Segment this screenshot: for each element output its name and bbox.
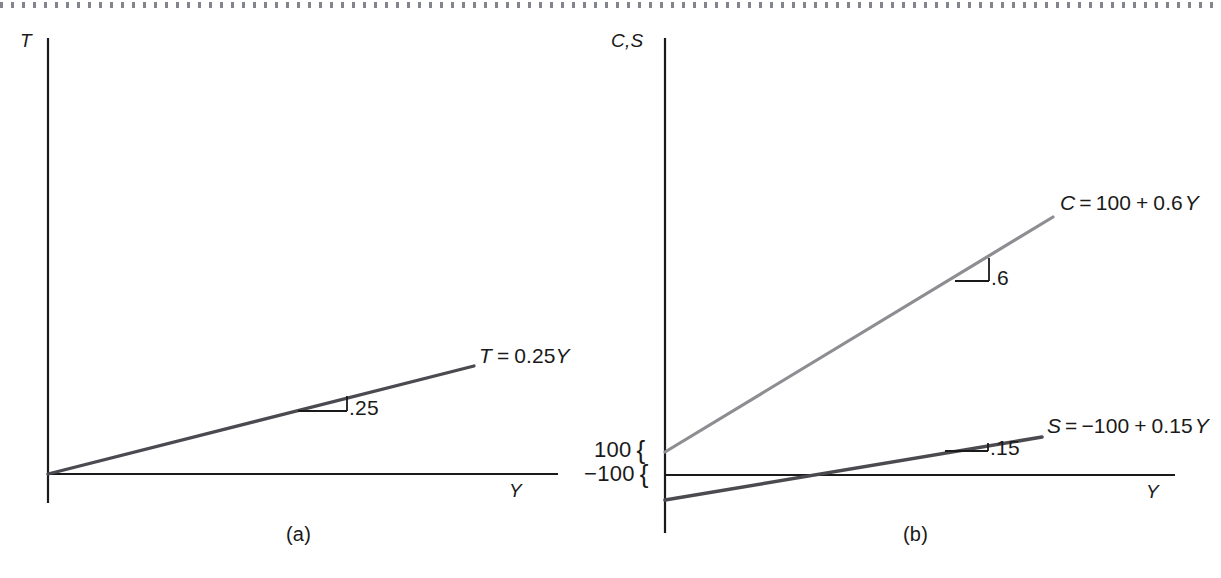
tick-positive-value: 100 — [594, 437, 632, 462]
saving-eq-variable: Y — [1195, 414, 1209, 437]
tax-eq-lhs: T — [479, 344, 492, 367]
panel-a-caption: (a) — [286, 524, 311, 544]
panel-b-tick-label-positive-100: 100{ — [594, 437, 646, 463]
tax-function-line — [48, 366, 474, 474]
panel-a-axes — [48, 38, 558, 503]
tick-negative-brace: { — [640, 459, 649, 489]
panel-a-slope-value-label: .25 — [349, 397, 379, 418]
saving-eq-slope: 0.15 — [1152, 414, 1193, 437]
panel-b-consumption-slope-triangle — [955, 258, 989, 281]
panel-a-y-axis-label: T — [20, 31, 32, 50]
saving-eq-intercept: −100 — [1081, 414, 1129, 437]
panel-a-x-axis-label: Y — [509, 481, 522, 500]
tax-eq-slope: 0.25 — [514, 344, 555, 367]
consumption-eq-slope: 0.6 — [1153, 191, 1183, 214]
panel-b-y-axis-label: C,S — [611, 31, 643, 50]
figure-container: T Y T=0.25Y .25 (a) C,S Y C=100+0.6Y .6 … — [0, 0, 1221, 578]
panel-b-caption: (b) — [903, 524, 928, 544]
saving-function-line — [665, 437, 1042, 500]
tax-function-equation-label: T=0.25Y — [479, 345, 570, 366]
tax-eq-equals: = — [497, 344, 509, 367]
consumption-eq-variable: Y — [1185, 191, 1199, 214]
consumption-eq-plus: + — [1136, 191, 1148, 214]
consumption-eq-intercept: 100 — [1096, 191, 1131, 214]
saving-eq-lhs: S — [1047, 414, 1061, 437]
panel-b-consumption-line — [665, 217, 1053, 452]
saving-eq-equals: = — [1065, 414, 1077, 437]
consumption-eq-lhs: C — [1060, 191, 1075, 214]
saving-eq-plus: + — [1134, 414, 1146, 437]
tick-negative-value: −100 — [584, 461, 635, 486]
panel-a-tax-line — [48, 366, 474, 474]
consumption-function-equation-label: C=100+0.6Y — [1060, 192, 1199, 213]
tax-eq-variable: Y — [556, 344, 570, 367]
consumption-eq-equals: = — [1079, 191, 1091, 214]
saving-slope-value-label: .15 — [990, 437, 1020, 458]
panel-b-x-axis-label: Y — [1146, 482, 1159, 501]
consumption-slope-value-label: .6 — [991, 267, 1009, 288]
panel-b-tick-label-negative-100: −100{ — [584, 461, 649, 487]
figure-drawing — [0, 0, 1221, 578]
panel-b-saving-line — [665, 437, 1042, 500]
consumption-function-line — [665, 217, 1053, 452]
saving-function-equation-label: S=−100+0.15Y — [1047, 415, 1209, 436]
